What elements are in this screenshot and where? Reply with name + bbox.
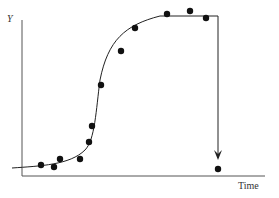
data-point — [57, 156, 63, 162]
data-points — [38, 8, 221, 172]
data-point — [203, 15, 209, 21]
data-point — [51, 164, 57, 170]
data-point — [98, 82, 104, 88]
data-point — [38, 162, 44, 168]
data-point — [215, 166, 221, 172]
x-axis-label: Time — [238, 180, 259, 191]
data-point — [164, 11, 170, 17]
chart-svg — [0, 0, 279, 198]
data-point — [132, 25, 138, 31]
fitted-curve — [12, 16, 218, 168]
chart: Y Time — [0, 0, 279, 198]
data-point — [86, 139, 92, 145]
data-point — [89, 123, 95, 129]
y-axis-label: Y — [7, 13, 13, 24]
data-point — [187, 8, 193, 14]
data-point — [77, 156, 83, 162]
data-point — [118, 48, 124, 54]
